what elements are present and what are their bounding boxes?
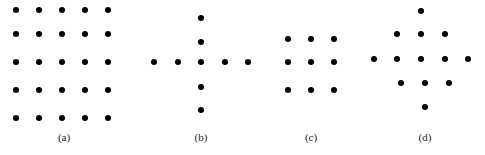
dot xyxy=(36,115,42,121)
dot xyxy=(151,59,157,65)
dot xyxy=(394,56,400,62)
dot xyxy=(59,115,65,121)
panel-d-label: (d) xyxy=(419,131,432,143)
dot xyxy=(308,59,314,65)
panel-c-label: (c) xyxy=(305,131,317,143)
dot xyxy=(13,87,19,93)
dot xyxy=(105,59,111,65)
dot xyxy=(13,115,19,121)
dot xyxy=(198,84,204,90)
dot xyxy=(198,39,204,45)
dot xyxy=(418,8,424,14)
dot xyxy=(422,80,428,86)
dot xyxy=(175,59,181,65)
dot xyxy=(36,87,42,93)
dot xyxy=(418,31,424,37)
dot xyxy=(422,104,428,110)
dot xyxy=(198,15,204,21)
dot xyxy=(59,87,65,93)
dot xyxy=(331,59,337,65)
dot-pattern-figure: (a) (b) (c) (d) xyxy=(0,0,485,155)
panel-a-label: (a) xyxy=(58,131,70,143)
dot xyxy=(442,56,448,62)
dot xyxy=(245,59,251,65)
dot xyxy=(82,31,88,37)
dot xyxy=(331,36,337,42)
dot xyxy=(105,87,111,93)
dot xyxy=(465,56,471,62)
dot xyxy=(285,87,291,93)
dot xyxy=(82,115,88,121)
dot xyxy=(331,87,337,93)
dot xyxy=(105,31,111,37)
dot xyxy=(446,80,452,86)
dot xyxy=(59,7,65,13)
dot xyxy=(36,7,42,13)
dot xyxy=(105,7,111,13)
dot xyxy=(82,7,88,13)
dot xyxy=(13,59,19,65)
dot xyxy=(36,31,42,37)
dot xyxy=(198,59,204,65)
dot xyxy=(59,59,65,65)
dot xyxy=(442,31,448,37)
dot xyxy=(13,7,19,13)
dot xyxy=(308,36,314,42)
dot xyxy=(13,31,19,37)
dot xyxy=(398,80,404,86)
dot xyxy=(394,31,400,37)
dot xyxy=(418,56,424,62)
dot xyxy=(82,87,88,93)
dot xyxy=(82,59,88,65)
dot xyxy=(36,59,42,65)
dot xyxy=(371,56,377,62)
dot xyxy=(285,36,291,42)
dot xyxy=(105,115,111,121)
dot xyxy=(222,59,228,65)
dot xyxy=(285,59,291,65)
dot xyxy=(308,87,314,93)
dot xyxy=(59,31,65,37)
panel-b-label: (b) xyxy=(195,131,208,143)
dot xyxy=(198,107,204,113)
